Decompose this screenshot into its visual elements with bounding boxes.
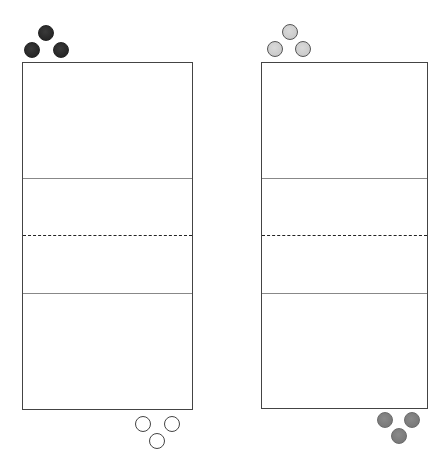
player-light-3[interactable] [295,41,311,57]
right-court [261,62,428,409]
player-mid-1[interactable] [377,412,393,428]
player-light-1[interactable] [282,24,298,40]
player-light-2[interactable] [267,41,283,57]
player-dark-2[interactable] [24,42,40,58]
right-court-center-line [262,235,427,236]
left-court-attack-line-top [23,178,192,179]
player-mid-2[interactable] [404,412,420,428]
left-court [22,62,193,410]
player-dark-3[interactable] [53,42,69,58]
left-court-center-line [23,235,192,236]
player-white-1[interactable] [135,416,151,432]
player-dark-1[interactable] [38,25,54,41]
right-court-attack-line-bottom [262,293,427,294]
left-court-attack-line-bottom [23,293,192,294]
right-court-attack-line-top [262,178,427,179]
player-mid-3[interactable] [391,428,407,444]
player-white-2[interactable] [164,416,180,432]
player-white-3[interactable] [149,433,165,449]
